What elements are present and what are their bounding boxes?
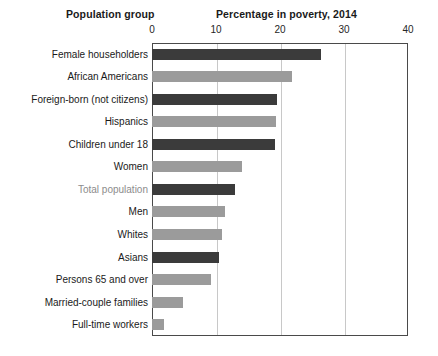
bar-track xyxy=(152,156,408,179)
bar xyxy=(152,274,211,285)
bar-track xyxy=(152,313,408,336)
bar-label: Female householders xyxy=(0,49,148,60)
bar-row: Women xyxy=(0,156,438,179)
bar-track xyxy=(152,223,408,246)
bar xyxy=(152,319,164,330)
bar-track xyxy=(152,111,408,134)
bar-rows: Female householdersAfrican AmericansFore… xyxy=(0,43,438,336)
x-axis-tick-labels: 010203040 xyxy=(0,24,438,38)
bar-label: Total population xyxy=(0,184,148,195)
bar-row: African Americans xyxy=(0,66,438,89)
bar xyxy=(152,94,277,105)
bar-label: Whites xyxy=(0,229,148,240)
bar-track xyxy=(152,66,408,89)
bar xyxy=(152,139,275,150)
bar-row: Hispanics xyxy=(0,111,438,134)
bar-row: Full-time workers xyxy=(0,313,438,336)
bar xyxy=(152,71,292,82)
bar-row: Whites xyxy=(0,223,438,246)
bar-label: Asians xyxy=(0,252,148,263)
bar-track xyxy=(152,291,408,314)
bar xyxy=(152,297,183,308)
bar-row: Persons 65 and over xyxy=(0,268,438,291)
x-axis-tick-30: 30 xyxy=(338,24,349,35)
x-axis-tick-40: 40 xyxy=(402,24,413,35)
bar-label: Children under 18 xyxy=(0,139,148,150)
bar xyxy=(152,116,276,127)
bar-row: Total population xyxy=(0,178,438,201)
bar-label: Persons 65 and over xyxy=(0,274,148,285)
bar-track xyxy=(152,201,408,224)
bar-track xyxy=(152,268,408,291)
bar-label: Women xyxy=(0,161,148,172)
x-axis-tick-10: 10 xyxy=(210,24,221,35)
bar-row: Foreign-born (not citizens) xyxy=(0,88,438,111)
bar-row: Married-couple families xyxy=(0,291,438,314)
bar-label: Hispanics xyxy=(0,116,148,127)
bar-label: Married-couple families xyxy=(0,297,148,308)
bar xyxy=(152,184,235,195)
bar-track xyxy=(152,88,408,111)
bar-track xyxy=(152,246,408,269)
bar-label: Full-time workers xyxy=(0,319,148,330)
bar-label: Men xyxy=(0,206,148,217)
bar xyxy=(152,229,222,240)
bar-row: Female householders xyxy=(0,43,438,66)
bar-track xyxy=(152,43,408,66)
bar xyxy=(152,252,219,263)
bar-track xyxy=(152,133,408,156)
bar-track xyxy=(152,178,408,201)
bar-row: Men xyxy=(0,201,438,224)
x-axis-tick-0: 0 xyxy=(149,24,155,35)
bar-row: Asians xyxy=(0,246,438,269)
bar-label: Foreign-born (not citizens) xyxy=(0,94,148,105)
bar xyxy=(152,206,225,217)
column-header-population-group: Population group xyxy=(66,8,155,20)
bar-label: African Americans xyxy=(0,71,148,82)
poverty-bar-chart: Population group Percentage in poverty, … xyxy=(0,0,438,356)
chart-title: Percentage in poverty, 2014 xyxy=(216,8,357,20)
bar-row: Children under 18 xyxy=(0,133,438,156)
bar xyxy=(152,161,242,172)
bar xyxy=(152,49,321,60)
x-axis-tick-20: 20 xyxy=(274,24,285,35)
